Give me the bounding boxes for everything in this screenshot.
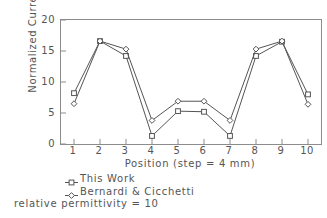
x-tick-label: 3: [113, 145, 137, 156]
plot-area: [60, 19, 322, 145]
series-line: [74, 41, 308, 136]
x-tick-label: 8: [243, 145, 267, 156]
legend-label: This Work: [80, 173, 135, 184]
x-tick-label: 9: [269, 145, 293, 156]
series-1: [72, 39, 311, 139]
x-axis-label: Position (step = 4 mm): [60, 158, 320, 169]
y-tick-label: 20: [35, 14, 55, 25]
chart-caption: relative permittivity = 10: [14, 198, 159, 209]
x-tick-label: 6: [191, 145, 215, 156]
chart-legend: This WorkBernardi & Cicchetti: [64, 172, 304, 198]
y-axis-tick-labels: 05101520: [33, 0, 55, 218]
chart-figure: Normalized Current 05101520 12345678910 …: [0, 0, 327, 218]
x-tick-label: 4: [139, 145, 163, 156]
series-line: [74, 41, 308, 120]
series-2: [71, 38, 311, 123]
legend-label: Bernardi & Cicchetti: [80, 186, 195, 197]
data-point-square: [176, 109, 181, 114]
data-point-square: [306, 92, 311, 97]
x-tick-label: 5: [165, 145, 189, 156]
x-axis-tick-labels: 12345678910: [60, 145, 320, 159]
legend-item: Bernardi & Cicchetti: [64, 185, 304, 198]
x-tick-label: 10: [295, 145, 319, 156]
plot-svg: [61, 20, 321, 144]
y-tick-label: 15: [35, 45, 55, 56]
data-point-square: [150, 134, 155, 139]
y-tick-label: 0: [35, 138, 55, 149]
data-point-square: [69, 180, 74, 185]
y-tick-label: 10: [35, 76, 55, 87]
data-point-square: [202, 109, 207, 114]
data-point-diamond: [253, 46, 259, 52]
data-point-square: [228, 134, 233, 139]
x-tick-label: 7: [217, 145, 241, 156]
data-point-diamond: [71, 101, 77, 107]
legend-marker-diamond-icon: [64, 186, 80, 197]
legend-marker-square-icon: [64, 173, 80, 184]
data-point-square: [72, 91, 77, 96]
legend-item: This Work: [64, 172, 304, 185]
data-point-diamond: [123, 46, 129, 52]
y-tick-label: 5: [35, 107, 55, 118]
x-tick-label: 2: [87, 145, 111, 156]
data-point-diamond: [305, 101, 311, 107]
x-tick-label: 1: [61, 145, 85, 156]
